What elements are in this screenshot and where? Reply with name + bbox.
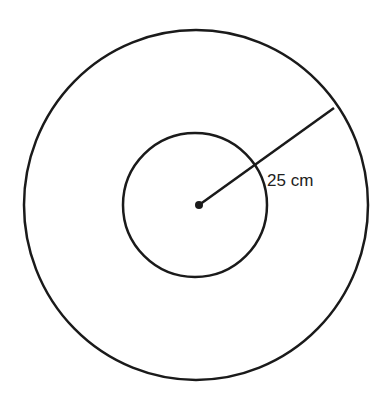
concentric-circles-figure: 25 cm (0, 0, 385, 401)
radius-label: 25 cm (267, 171, 313, 190)
diagram-canvas: 25 cm (0, 0, 385, 401)
center-point (195, 201, 203, 209)
